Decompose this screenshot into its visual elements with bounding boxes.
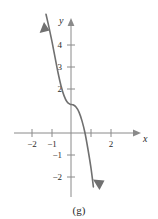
x-tick--2: −2 <box>27 129 37 149</box>
x-tick-label: 2 <box>109 139 114 149</box>
y-tick-label: −1 <box>52 150 62 160</box>
curve-group <box>40 14 105 190</box>
y-axis-label: y <box>58 15 64 26</box>
y-tick--2: −2 <box>52 172 75 182</box>
x-tick-group: −2 −1 2 <box>27 129 113 149</box>
y-tick--1: −1 <box>52 150 75 160</box>
y-tick-label: −2 <box>52 172 62 182</box>
figure-container: x y −2 −1 2 <box>0 0 158 219</box>
y-tick-3: 3 <box>58 62 76 72</box>
y-axis-arrow-icon <box>68 18 75 26</box>
x-tick-label: −2 <box>27 139 37 149</box>
x-axis-label: x <box>142 133 148 144</box>
function-curve <box>46 14 93 187</box>
y-tick-4: 4 <box>58 40 76 50</box>
y-tick-label: 4 <box>58 40 63 50</box>
figure-caption: (g) <box>0 204 158 216</box>
x-tick-2: 2 <box>109 129 114 149</box>
curve-arrow-down-icon <box>93 180 105 191</box>
x-tick-label: −1 <box>47 139 57 149</box>
coordinate-plot: x y −2 −1 2 <box>0 0 158 200</box>
x-axis-arrow-icon <box>133 130 141 137</box>
x-tick--1: −1 <box>47 129 57 149</box>
